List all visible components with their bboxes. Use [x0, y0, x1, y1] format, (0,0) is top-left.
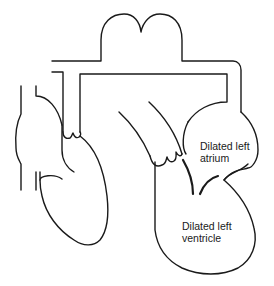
superior-vena-cava-outer: [16, 86, 21, 190]
heart-diagram: Dilated left atrium Dilated left ventric…: [0, 0, 274, 286]
label-dilated-left-atrium: Dilated left atrium: [200, 140, 250, 164]
label-left-ventricle-line2: ventricle: [182, 232, 232, 244]
right-atrium-outline: [62, 125, 74, 172]
right-ventricle-outline: [40, 136, 108, 245]
pulmonary-trunk-outline: [80, 74, 227, 132]
septum-curve-2: [149, 102, 182, 154]
septum-curve-1: [119, 112, 150, 156]
pulmonary-valve-cusps: [63, 132, 81, 138]
label-left-atrium-line1: Dilated left: [200, 140, 250, 152]
label-left-ventricle-line1: Dilated left: [182, 220, 232, 232]
label-dilated-left-ventricle: Dilated left ventricle: [182, 220, 232, 244]
papillary-line-right: [200, 176, 218, 194]
superior-vena-cava-inner: [36, 86, 62, 125]
papillary-line-left: [183, 160, 193, 194]
label-left-atrium-line2: atrium: [200, 152, 250, 164]
left-ventricle-outline: [155, 162, 255, 274]
